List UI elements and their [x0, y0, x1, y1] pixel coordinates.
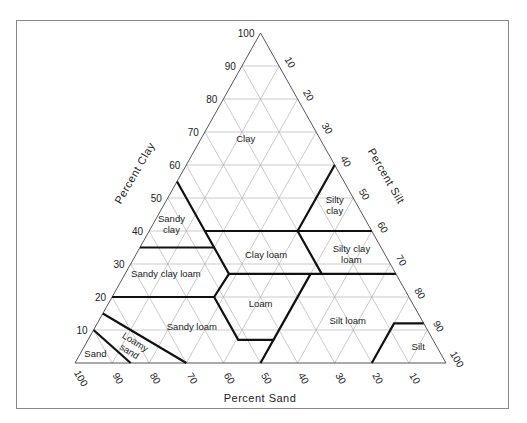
region-label-line: clay [163, 224, 180, 235]
region-label-silty-clay: Siltyclay [326, 194, 344, 216]
region-label-silt: Silt [412, 341, 426, 352]
region-label-sandy-clay: Sandyclay [158, 213, 185, 235]
silt-tick-label: 20 [301, 88, 316, 104]
sand-tick-label: 80 [148, 371, 163, 387]
region-label-line: Sand [84, 348, 106, 359]
silt-gridline [335, 264, 391, 363]
clay-tick-label: 70 [188, 127, 200, 138]
region-label-loam: Loam [249, 298, 273, 309]
silt-tick-label: 40 [338, 154, 353, 170]
sand-tick-label: 10 [407, 371, 422, 387]
silt-tick-label: 50 [357, 187, 372, 203]
clay-tick-label: 60 [169, 160, 181, 171]
region-label-line: Silt [412, 341, 426, 352]
clay-tick-label: 40 [132, 226, 144, 237]
silt-tick-label: 10 [283, 55, 298, 71]
region-label-clay: Clay [236, 133, 255, 144]
sand-tick-label: 50 [259, 371, 274, 387]
silt-tick-label: 60 [375, 220, 390, 236]
gridlines [94, 66, 428, 363]
sand-tick-label: 30 [333, 371, 348, 387]
region-label-loamy-sand: Loamysand [115, 330, 151, 364]
region-label-silty-clay-loam: Silty clayloam [333, 243, 371, 265]
region-label-line: Sandy loam [167, 321, 217, 332]
region-label-line: clay [326, 205, 343, 216]
clay-tick-label: 30 [114, 259, 126, 270]
sand-tick-label: 70 [185, 371, 200, 387]
region-label-line: Silt loam [329, 315, 366, 326]
silt-tick-label: 100 [448, 349, 466, 369]
clay-tick-label: 80 [206, 94, 218, 105]
region-label-line: Clay loam [245, 249, 287, 260]
region-label-line: Sandy [158, 213, 185, 224]
silt-tick-label: 70 [394, 253, 409, 269]
region-label-silt-loam: Silt loam [329, 315, 366, 326]
class-boundary [177, 182, 229, 298]
silt-tick-label: 90 [431, 319, 446, 335]
sand-tick-label: 90 [111, 371, 126, 387]
region-label-line: Clay [236, 133, 255, 144]
sand-tick-label: 100 [72, 368, 90, 388]
sand-tick-label: 60 [222, 371, 237, 387]
sand-tick-label: 20 [370, 371, 385, 387]
region-label-sand: Sand [84, 348, 106, 359]
sand-axis-title: Percent Sand [224, 392, 297, 404]
clay-tick-label: 100 [238, 28, 255, 39]
silt-axis-title: Percent Silt [366, 146, 408, 206]
region-label-line: Loam [249, 298, 273, 309]
sand-gridline [205, 132, 335, 363]
region-label-line: Silty [326, 194, 344, 205]
region-label-clay-loam: Clay loam [245, 249, 287, 260]
silt-tick-label: 30 [320, 121, 335, 137]
class-boundary [298, 165, 335, 274]
region-label-sandy-loam: Sandy loam [167, 321, 217, 332]
region-label-line: loam [341, 254, 362, 265]
soil-texture-triangle: 1020304050607080901001020304050607080901… [0, 0, 527, 423]
clay-tick-label: 50 [151, 193, 163, 204]
region-label-line: Silty clay [333, 243, 371, 254]
clay-tick-label: 20 [95, 292, 107, 303]
region-label-sandy-clay-loam: Sandy clay loam [131, 268, 201, 279]
silt-tick-label: 80 [412, 286, 427, 302]
sand-tick-label: 40 [296, 371, 311, 387]
clay-tick-label: 90 [225, 61, 237, 72]
clay-tick-label: 10 [76, 325, 88, 336]
region-label-line: Sandy clay loam [131, 268, 201, 279]
